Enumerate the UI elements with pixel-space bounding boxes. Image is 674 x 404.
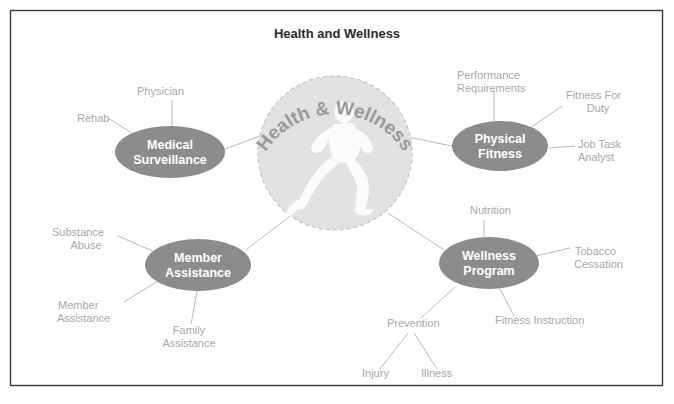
leaf-label-member-assistance-line2: Assistance	[57, 312, 110, 324]
leaf-label-substance-abuse-line1: Substance	[52, 226, 104, 238]
connector-hub-member	[246, 216, 290, 250]
leaf-label-member-assistance-line1: Member	[58, 299, 99, 311]
node-member-assistance[interactable]: Member Assistance	[145, 239, 251, 291]
node-label-wellness-line2: Program	[463, 264, 514, 278]
node-ellipse-member-assistance[interactable]	[145, 239, 251, 291]
node-wellness-program[interactable]: Wellness Program	[439, 237, 539, 289]
node-label-physical-line2: Fitness	[478, 147, 522, 161]
connector-fitness-for-duty	[527, 106, 562, 130]
connector-hub-wellness	[388, 213, 444, 250]
health-wellness-diagram: Health and Wellness	[0, 0, 674, 404]
leaf-label-substance-abuse-line2: Abuse	[70, 239, 101, 251]
leaf-label-tobacco-cessation-line1: Tobacco	[575, 245, 616, 257]
leaf-label-family-assistance-line2: Assistance	[162, 337, 215, 349]
node-ellipse-physical-fitness[interactable]	[452, 121, 548, 171]
node-physical-fitness[interactable]: Physical Fitness	[452, 121, 548, 171]
leaf-label-fitness-for-duty-line2: Duty	[587, 102, 610, 114]
connector-job-task-analyst	[549, 146, 575, 148]
leaf-label-performance-requirements-line1: Performance	[457, 69, 520, 81]
connector-rehab	[108, 118, 135, 135]
node-label-wellness-line1: Wellness	[462, 249, 516, 263]
leaf-label-illness: Illness	[421, 367, 453, 379]
page-title: Health and Wellness	[274, 26, 400, 41]
connector-family-assistance	[191, 291, 197, 324]
leaf-label-fitness-for-duty-line1: Fitness For	[566, 89, 621, 101]
leaf-label-job-task-analyst-line1: Job Task	[578, 138, 622, 150]
connector-member-assistance-leaf	[124, 281, 158, 302]
node-ellipse-wellness-program[interactable]	[439, 237, 539, 289]
node-label-member-line2: Assistance	[165, 266, 231, 280]
leaf-label-nutrition: Nutrition	[470, 204, 511, 216]
node-label-member-line1: Member	[174, 251, 222, 265]
central-hub: Health & Wellness	[252, 76, 418, 230]
node-medical-surveillance[interactable]: Medical Surveillance	[115, 126, 225, 178]
leaf-label-job-task-analyst-line2: Analyst	[578, 151, 614, 163]
diagram-root: Health and Wellness	[0, 0, 674, 404]
connector-substance-abuse	[118, 236, 155, 252]
leaf-label-performance-requirements-line2: Requirements	[457, 82, 526, 94]
leaf-label-rehab: Rehab	[77, 112, 109, 124]
node-ellipse-medical-surveillance[interactable]	[115, 126, 225, 178]
connector-injury	[380, 333, 408, 369]
leaf-label-family-assistance-line1: Family	[173, 324, 206, 336]
leaf-label-injury: Injury	[362, 367, 389, 379]
leaf-label-prevention: Prevention	[387, 317, 440, 329]
connector-prevention	[421, 287, 455, 318]
connector-tobacco-cessation	[536, 248, 570, 256]
leaf-label-tobacco-cessation-line2: Cessation	[574, 258, 623, 270]
node-label-medical-line1: Medical	[147, 138, 193, 152]
leaf-label-fitness-instruction: Fitness Instruction	[495, 314, 584, 326]
node-label-physical-line1: Physical	[475, 132, 526, 146]
connector-fitness-instruction	[500, 289, 514, 316]
leaf-label-physician: Physician	[137, 85, 184, 97]
node-label-medical-line2: Surveillance	[133, 153, 207, 167]
connector-illness	[414, 333, 437, 369]
